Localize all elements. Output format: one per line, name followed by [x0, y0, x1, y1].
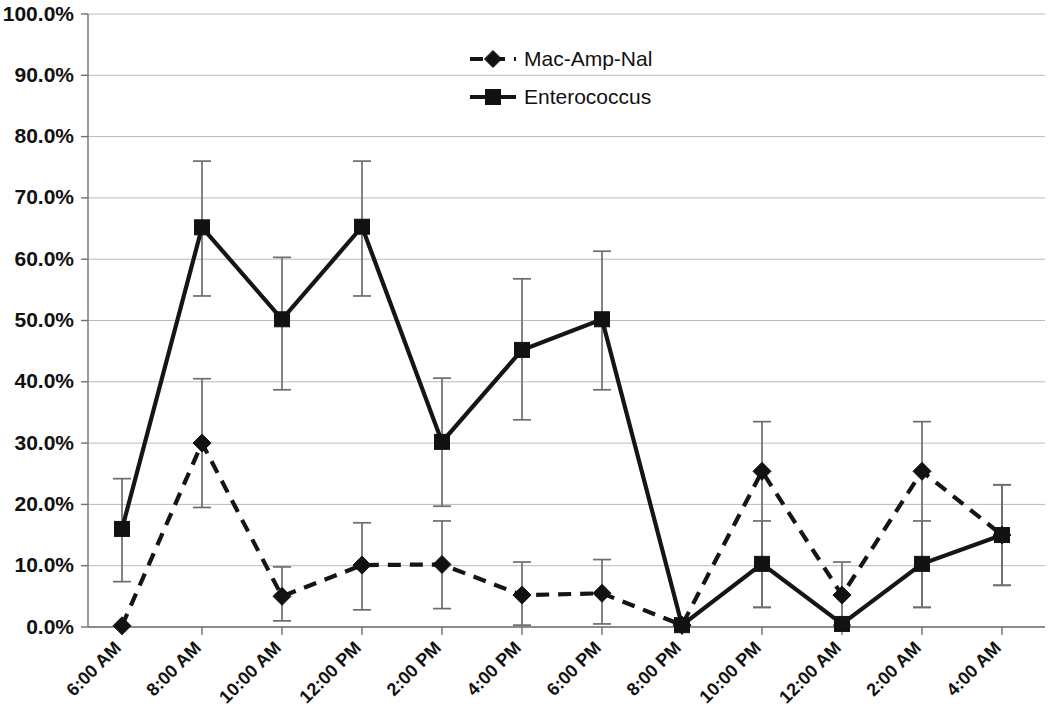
legend-item-enterococcus[interactable]: Enterococcus: [470, 85, 651, 108]
marker-diamond: [913, 462, 931, 480]
y-axis-tick-label: 40.0%: [14, 369, 74, 392]
x-axis-tick-labels: 6:00 AM8:00 AM10:00 AM12:00 PM2:00 PM4:0…: [62, 638, 1004, 708]
y-axis-tick-label: 50.0%: [14, 308, 74, 331]
legend-label: Mac-Amp-Nal: [524, 47, 652, 70]
marker-square: [275, 312, 290, 327]
y-axis-tick-label: 0.0%: [26, 615, 74, 638]
y-axis-tick-label: 90.0%: [14, 63, 74, 86]
line-chart: 0.0%10.0%20.0%30.0%40.0%50.0%60.0%70.0%8…: [0, 0, 1061, 712]
marker-square: [355, 219, 370, 234]
legend-marker-square: [486, 90, 501, 105]
marker-square: [595, 312, 610, 327]
marker-square: [515, 342, 530, 357]
legend-label: Enterococcus: [524, 85, 651, 108]
marker-diamond: [193, 434, 211, 452]
chart-legend: Mac-Amp-NalEnterococcus: [470, 47, 652, 108]
x-axis-tick-label: 12:00 PM: [295, 638, 364, 707]
x-axis-tick-label: 6:00 AM: [62, 638, 124, 700]
marker-diamond: [113, 617, 131, 635]
y-axis-tick-label: 20.0%: [14, 492, 74, 515]
legend-marker-diamond: [485, 51, 502, 68]
x-axis-tick-label: 2:00 AM: [862, 638, 924, 700]
marker-diamond: [513, 586, 531, 604]
x-axis-tick-label: 4:00 PM: [463, 638, 525, 700]
y-axis-tick-label: 70.0%: [14, 185, 74, 208]
marker-square: [195, 220, 210, 235]
x-axis-tick-label: 12:00 AM: [775, 638, 845, 708]
series-line-mac-amp-nal: [122, 443, 1002, 626]
marker-square: [115, 521, 130, 536]
marker-diamond: [353, 556, 371, 574]
y-axis-tick-label: 30.0%: [14, 431, 74, 454]
y-axis-tick-label: 60.0%: [14, 247, 74, 270]
marker-diamond: [433, 555, 451, 573]
legend-item-mac-amp-nal[interactable]: Mac-Amp-Nal: [470, 47, 652, 70]
marker-square: [435, 434, 450, 449]
x-axis-tick-label: 10:00 PM: [695, 638, 764, 707]
x-axis-tick-label: 10:00 AM: [215, 638, 285, 708]
marker-square: [675, 618, 690, 633]
x-axis-tick-label: 6:00 PM: [543, 638, 605, 700]
x-axis-tick-label: 8:00 AM: [142, 638, 204, 700]
marker-diamond: [593, 584, 611, 602]
chart-container: 0.0%10.0%20.0%30.0%40.0%50.0%60.0%70.0%8…: [0, 0, 1061, 712]
error-bars: [113, 161, 1011, 625]
marker-square: [915, 556, 930, 571]
marker-diamond: [273, 587, 291, 605]
marker-square: [835, 616, 850, 631]
y-axis-tick-label: 10.0%: [14, 553, 74, 576]
marker-square: [755, 556, 770, 571]
marker-square: [995, 528, 1010, 543]
y-axis-tick-labels: 0.0%10.0%20.0%30.0%40.0%50.0%60.0%70.0%8…: [3, 2, 75, 638]
x-axis-tick-label: 8:00 PM: [623, 638, 685, 700]
y-axis-tick-label: 100.0%: [3, 2, 75, 25]
x-axis-tick-label: 2:00 PM: [383, 638, 445, 700]
x-axis-tick-label: 4:00 AM: [942, 638, 1004, 700]
y-axis-tick-label: 80.0%: [14, 124, 74, 147]
